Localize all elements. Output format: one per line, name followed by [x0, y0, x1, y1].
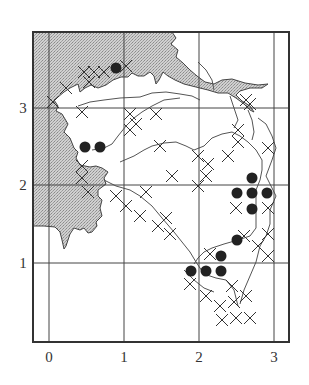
dot-marker: [232, 188, 243, 199]
dot-marker: [262, 188, 273, 199]
dot-marker: [247, 188, 258, 199]
dot-marker: [186, 266, 197, 277]
dot-markers: [80, 63, 273, 277]
dot-marker: [232, 235, 243, 246]
dot-marker: [95, 142, 106, 153]
x-axis-labels: 0 1 2 3: [45, 349, 278, 365]
x-tick-2: 2: [195, 349, 203, 365]
dot-marker: [247, 173, 258, 184]
sea-region: [33, 32, 268, 249]
x-tick-3: 3: [270, 349, 278, 365]
y-tick-3: 3: [19, 100, 27, 116]
dot-marker: [247, 204, 258, 215]
y-tick-2: 2: [19, 177, 27, 193]
dot-marker: [216, 251, 227, 262]
dot-marker: [201, 266, 212, 277]
x-tick-1: 1: [120, 349, 128, 365]
y-axis-labels: 1 2 3: [19, 100, 27, 271]
dot-marker: [80, 142, 91, 153]
dot-marker: [111, 63, 122, 74]
y-tick-1: 1: [19, 255, 27, 271]
dot-marker: [216, 266, 227, 277]
distribution-map: 0 1 2 3 1 2 3: [0, 0, 309, 385]
x-tick-0: 0: [45, 349, 53, 365]
land-outlines: [78, 62, 276, 306]
